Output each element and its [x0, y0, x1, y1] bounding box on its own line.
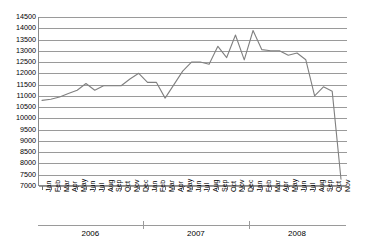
x-tick-29: [297, 186, 298, 190]
x-tick-24: [253, 186, 254, 190]
x-tick-32: [323, 186, 324, 190]
x-tick-27: [279, 186, 280, 190]
x-tick-20: [218, 186, 219, 190]
x-tick-26: [271, 186, 272, 190]
x-tick-25: [262, 186, 263, 190]
line-chart: 1450014000135001300012500120001150011000…: [0, 0, 377, 247]
x-tick-19: [209, 186, 210, 190]
x-tick-7: [104, 186, 105, 190]
x-tick-34: [341, 186, 342, 190]
x-tick-11: [139, 186, 140, 190]
x-tick-8: [112, 186, 113, 190]
x-tick-31: [315, 186, 316, 190]
x-tick-1: [51, 186, 52, 190]
year-separator-2008: [249, 221, 250, 229]
year-label-2006: 2006: [42, 229, 139, 238]
x-tick-16: [183, 186, 184, 190]
year-axis-line: [38, 225, 346, 226]
x-tick-18: [200, 186, 201, 190]
series-layer: [0, 0, 377, 247]
x-tick-28: [288, 186, 289, 190]
series-line-index: [42, 31, 341, 180]
x-tick-13: [156, 186, 157, 190]
x-tick-22: [235, 186, 236, 190]
x-tick-4: [77, 186, 78, 190]
x-tick-10: [130, 186, 131, 190]
x-tick-6: [95, 186, 96, 190]
x-tick-2: [60, 186, 61, 190]
x-tick-15: [174, 186, 175, 190]
x-tick-0: [42, 186, 43, 190]
x-tick-3: [68, 186, 69, 190]
x-tick-21: [227, 186, 228, 190]
x-tick-33: [332, 186, 333, 190]
x-tick-12: [148, 186, 149, 190]
x-tick-label-34: Nov: [344, 180, 351, 192]
x-tick-23: [244, 186, 245, 190]
x-tick-14: [165, 186, 166, 190]
year-label-2008: 2008: [253, 229, 341, 238]
x-tick-9: [121, 186, 122, 190]
year-separator-2007: [143, 221, 144, 229]
x-tick-17: [192, 186, 193, 190]
year-label-2007: 2007: [148, 229, 245, 238]
x-tick-30: [306, 186, 307, 190]
x-tick-5: [86, 186, 87, 190]
